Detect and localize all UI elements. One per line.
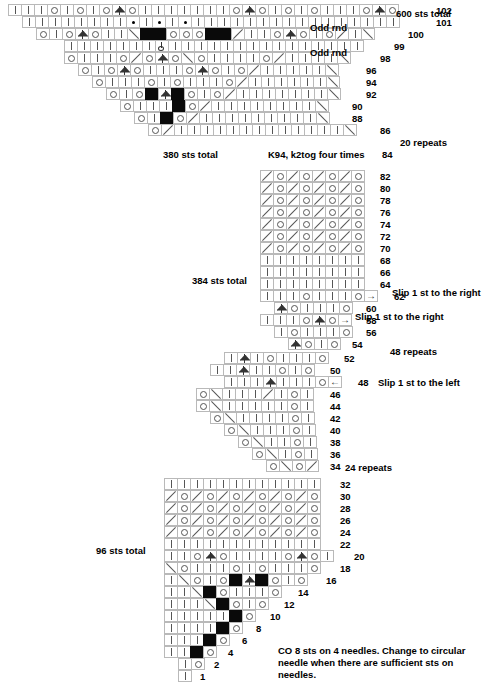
chart-cell-yo (203, 646, 217, 658)
knit-icon (311, 450, 312, 458)
knit-icon (292, 54, 293, 62)
knit-icon (275, 552, 276, 560)
chart-cell-cdd (372, 4, 386, 16)
knit-icon (358, 256, 359, 264)
knit-icon (230, 366, 231, 374)
k2tog-icon (165, 527, 177, 537)
chart-cell-knit (164, 598, 178, 610)
k2tog-icon (269, 503, 281, 513)
chart-cell-knit (177, 538, 191, 550)
chart-cell-yo (255, 502, 269, 514)
yarn-over-icon (212, 67, 219, 74)
yarn-over-icon (233, 625, 240, 632)
chart-cell-knit (164, 586, 178, 598)
chart-cell-yo (299, 290, 313, 302)
chart-cell-knit (286, 64, 300, 76)
chart-cell-knit (257, 28, 271, 40)
knit-icon (333, 328, 334, 336)
knit-icon (282, 414, 283, 422)
chart-cell-k2tog (294, 490, 308, 502)
knit-icon (184, 612, 185, 620)
chart-cell-knit (312, 64, 326, 76)
chart-cell-yo (275, 364, 289, 376)
knit-icon (158, 6, 159, 14)
yarn-over-icon (220, 553, 227, 560)
chart-cell-k2tog (260, 182, 274, 194)
chart-row (164, 610, 256, 622)
chart-cell-knit (252, 124, 266, 136)
chart-cell-knit (301, 88, 315, 100)
chart-cell-k2tog (190, 526, 204, 538)
yarn-over-icon (207, 505, 214, 512)
chart-cell-yo (281, 502, 295, 514)
yarn-over-icon (303, 245, 310, 252)
k2tog-icon (243, 515, 255, 525)
chart-cell-yo (208, 64, 222, 76)
chart-cell-knit (250, 352, 264, 364)
chart-cell-knit (268, 4, 282, 16)
k2tog-icon (217, 491, 229, 501)
chart-cell-yo (148, 124, 162, 136)
yarn-over-icon (329, 233, 336, 240)
ssk-icon (165, 563, 177, 573)
chart-cell-knit (286, 290, 300, 302)
chart-cell-k2tog (223, 88, 237, 100)
knit-icon (210, 540, 211, 548)
knit-icon (185, 660, 186, 668)
knit-icon (281, 402, 282, 410)
knit-icon (357, 42, 358, 50)
knit-icon (244, 378, 245, 386)
chart-cell-knit (236, 88, 250, 100)
chart-cell-k2tog (190, 502, 204, 514)
yarn-over-icon (329, 173, 336, 180)
knit-icon (257, 378, 258, 386)
yarn-over-icon (108, 67, 115, 74)
chart-cell-purl (178, 16, 192, 28)
knit-icon (306, 66, 307, 74)
row-number-80: 80 (380, 184, 391, 194)
knit-icon (15, 6, 16, 14)
chart-cell-yo (134, 112, 148, 124)
k2tog-icon (273, 53, 285, 63)
chart-cell-knit (338, 278, 352, 290)
knit-icon (245, 114, 246, 122)
chart-cell-yo (268, 574, 282, 586)
chart-cell-yo (351, 230, 365, 242)
chart-cell-k2tog (242, 514, 256, 526)
chart-cell-yo (177, 526, 191, 538)
chart-row (252, 448, 318, 460)
cdd-icon (158, 54, 167, 63)
chart-cell-knit (200, 124, 214, 136)
chart-cell-knit (248, 76, 262, 88)
chart-cell-knit (224, 376, 238, 388)
knit-icon (223, 480, 224, 488)
chart-cell-knit (273, 290, 287, 302)
yarn-over-icon (355, 197, 362, 204)
chart-cell-yo (73, 4, 87, 16)
chart-cell-knit (77, 52, 91, 64)
knit-icon (251, 30, 252, 38)
chart-cell-k2tog (164, 490, 178, 502)
chart-cell-yo (203, 490, 217, 502)
chart-cell-knit (289, 376, 303, 388)
knit-icon (217, 366, 218, 374)
row-number-4: 4 (228, 648, 233, 658)
chart-cell-k2tog (294, 502, 308, 514)
knit-icon (163, 66, 164, 74)
knit-icon (138, 78, 139, 86)
chart-cell-ssk (181, 52, 195, 64)
chart-cell-knit (273, 278, 287, 290)
knit-icon (307, 304, 308, 312)
knit-icon (197, 6, 198, 14)
yarn-over-icon (355, 173, 362, 180)
chart-cell-knit (216, 538, 230, 550)
knit-icon (256, 366, 257, 374)
knit-icon (67, 6, 68, 14)
knit-icon (293, 280, 294, 288)
chart-cell-yo (281, 4, 295, 16)
chart-cell-dark (203, 586, 217, 598)
chart-cell-knit (222, 400, 236, 412)
chart-cell-knit (146, 100, 160, 112)
yarn-over-icon (293, 427, 300, 434)
chart-cell-knit (330, 124, 344, 136)
